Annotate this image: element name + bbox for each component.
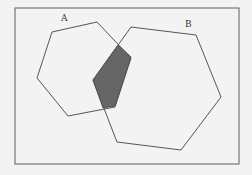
diagram-frame <box>15 8 239 164</box>
label-a: A <box>60 13 68 23</box>
venn-diagram: A B <box>0 0 252 175</box>
label-b: B <box>185 19 192 29</box>
